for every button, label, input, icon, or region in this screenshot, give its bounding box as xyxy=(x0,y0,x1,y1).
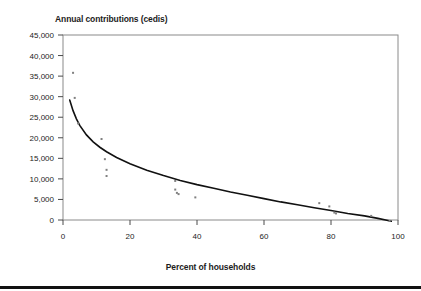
x-axis-title: Percent of households xyxy=(0,262,421,272)
y-axis-ticks xyxy=(58,35,63,220)
x-tick-label: 20 xyxy=(126,232,135,241)
y-tick-label: 20,000 xyxy=(8,133,54,142)
y-tick-label: 0 xyxy=(8,216,54,225)
x-axis-ticks xyxy=(63,220,398,225)
scatter-marker xyxy=(74,97,76,99)
footer-rule xyxy=(0,286,421,289)
y-tick-label: 30,000 xyxy=(8,92,54,101)
scatter-marker xyxy=(335,212,337,214)
scatter-marker xyxy=(178,193,180,195)
scatter-marker xyxy=(104,158,106,160)
y-tick-label: 45,000 xyxy=(8,31,54,40)
x-tick-label: 100 xyxy=(391,232,404,241)
fit-line-path xyxy=(70,100,392,221)
fitted-curve xyxy=(70,100,392,221)
scatter-marker xyxy=(328,205,330,207)
x-tick-label: 0 xyxy=(61,232,65,241)
scatter-marker xyxy=(106,169,108,171)
x-tick-label: 40 xyxy=(193,232,202,241)
y-tick-label: 5,000 xyxy=(8,195,54,204)
plot-canvas xyxy=(0,0,421,291)
y-tick-label: 25,000 xyxy=(8,113,54,122)
x-tick-label: 80 xyxy=(327,232,336,241)
scatter-marker xyxy=(194,196,196,198)
scatter-marker xyxy=(101,138,103,140)
y-tick-label: 40,000 xyxy=(8,51,54,60)
scatter-marker xyxy=(72,72,74,74)
scatter-marker xyxy=(370,215,372,217)
y-tick-label: 10,000 xyxy=(8,174,54,183)
scatter-marker xyxy=(77,122,79,124)
scatter-marker xyxy=(174,189,176,191)
data-points xyxy=(72,72,391,222)
x-tick-label: 60 xyxy=(260,232,269,241)
y-tick-label: 15,000 xyxy=(8,154,54,163)
scatter-marker xyxy=(106,175,108,177)
scatter-marker xyxy=(174,180,176,182)
scatter-marker xyxy=(389,220,391,222)
y-tick-label: 35,000 xyxy=(8,72,54,81)
scatter-marker xyxy=(318,202,320,204)
chart-figure: Annual contributions (cedis) 05,00010,00… xyxy=(0,0,421,291)
